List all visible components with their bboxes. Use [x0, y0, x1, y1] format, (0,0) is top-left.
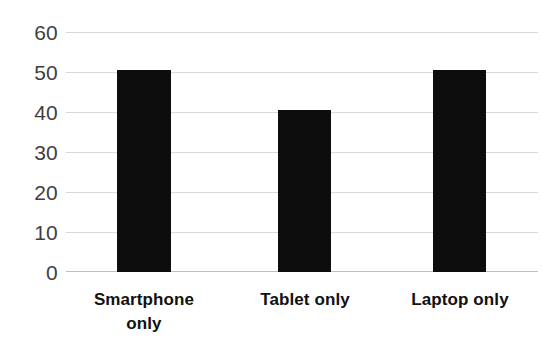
category-label-line1: Smartphone: [80, 288, 208, 312]
bar-chart: 60 50 40 30 20 10 0 Smartphone only Tabl…: [0, 0, 549, 362]
bar-tablet-only: [278, 110, 331, 272]
category-label-smartphone-only: Smartphone only: [80, 288, 208, 336]
y-tick-label-0: 0: [0, 262, 58, 283]
bar-laptop-only: [433, 70, 486, 272]
category-label-laptop-only: Laptop only: [396, 288, 524, 312]
y-tick-label-40: 40: [0, 102, 58, 123]
category-label-tablet-only: Tablet only: [241, 288, 369, 312]
y-tick-label-10: 10: [0, 222, 58, 243]
y-axis: 60 50 40 30 20 10 0: [0, 0, 58, 362]
y-tick-label-30: 30: [0, 142, 58, 163]
y-tick-label-60: 60: [0, 22, 58, 43]
category-label-line1: Laptop only: [396, 288, 524, 312]
y-tick-label-50: 50: [0, 62, 58, 83]
bar-smartphone-only: [117, 70, 171, 272]
y-tick-label-20: 20: [0, 182, 58, 203]
gridline-60: [66, 32, 538, 33]
category-label-line1: Tablet only: [241, 288, 369, 312]
plot-area: [66, 32, 538, 272]
x-axis-labels: Smartphone only Tablet only Laptop only: [66, 288, 538, 358]
category-label-line2: only: [80, 312, 208, 336]
